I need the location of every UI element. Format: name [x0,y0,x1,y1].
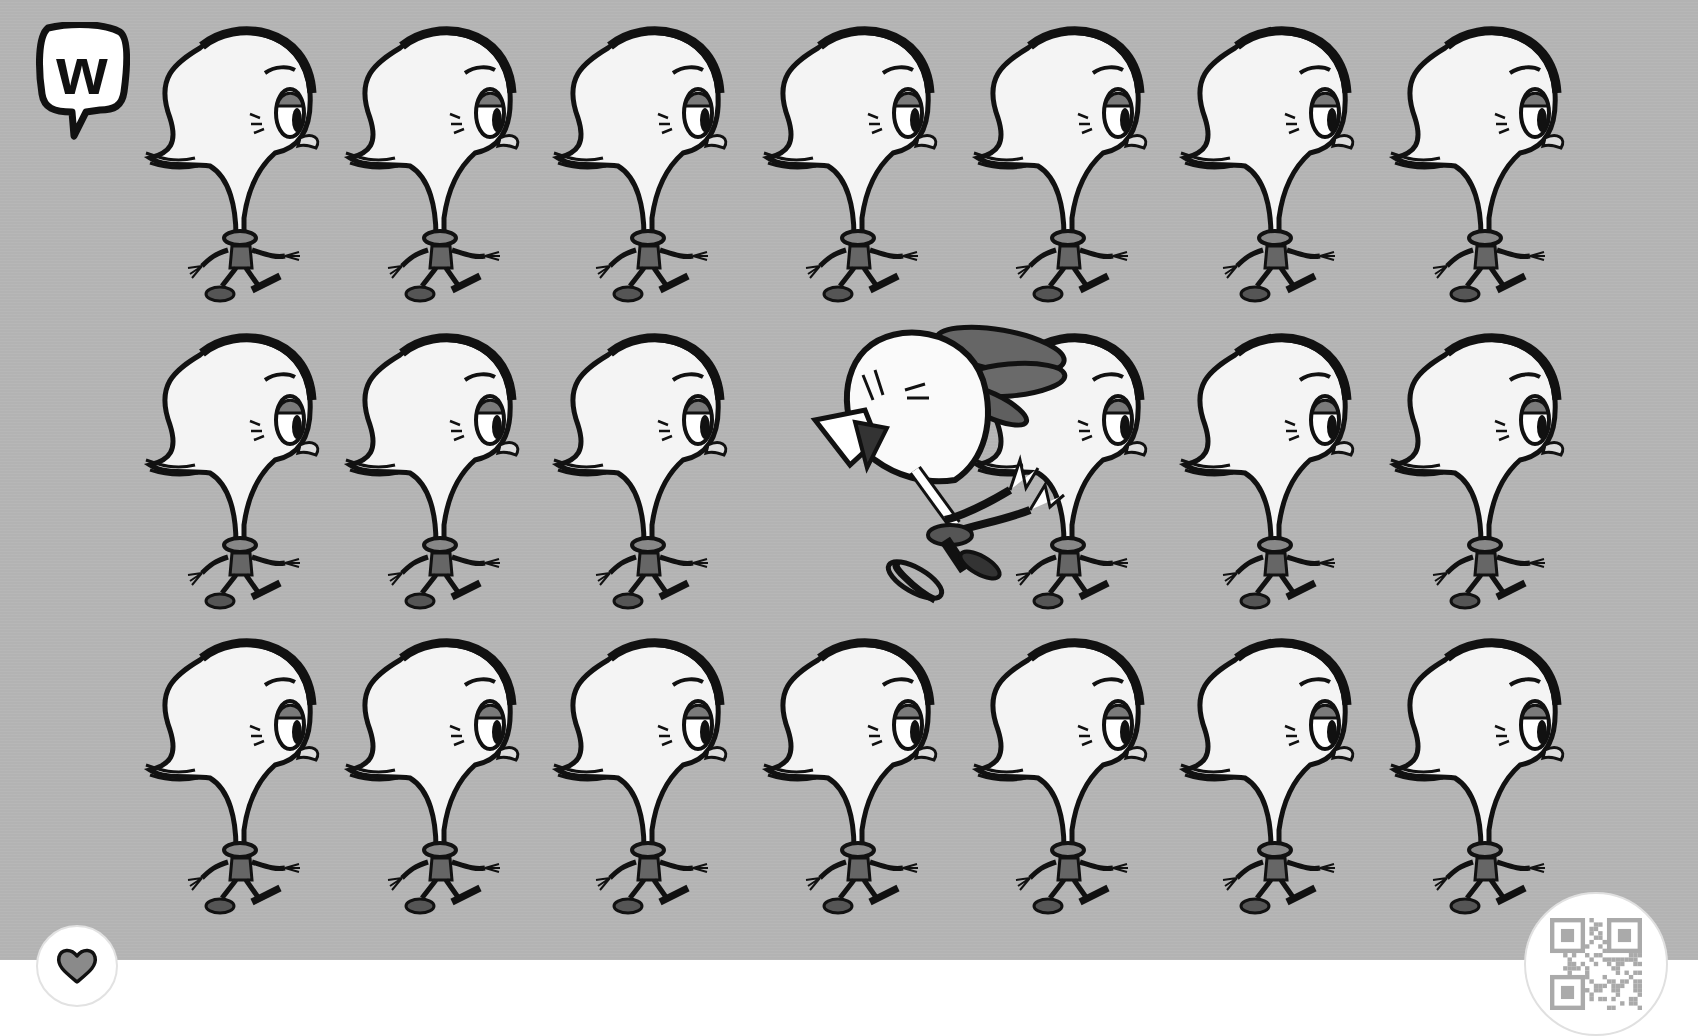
logo-icon: w [34,22,130,140]
heart-icon [55,946,99,986]
qr-code-icon [1550,918,1642,1010]
walking-bird[interactable] [140,325,320,610]
walking-bird[interactable] [548,630,728,915]
walking-bird[interactable] [340,630,520,915]
walking-bird[interactable] [548,325,728,610]
odd-one-out-chick[interactable] [795,310,1075,610]
walking-bird[interactable] [340,18,520,303]
walking-bird[interactable] [1385,325,1565,610]
walking-bird[interactable] [758,18,938,303]
walking-bird[interactable] [1385,630,1565,915]
logo-letter: w [55,34,108,108]
walking-bird[interactable] [1175,18,1355,303]
walking-bird[interactable] [140,630,320,915]
walking-bird[interactable] [1175,325,1355,610]
walking-bird[interactable] [140,18,320,303]
walking-bird[interactable] [1175,630,1355,915]
walking-bird[interactable] [968,18,1148,303]
walking-bird[interactable] [340,325,520,610]
walking-bird[interactable] [1385,18,1565,303]
walking-bird[interactable] [968,630,1148,915]
scene-title: Find the odd one out [0,0,1,1]
illustration-canvas: Find the odd one out w [0,0,1698,960]
qr-code-badge: QR code [1524,892,1668,1036]
walking-bird[interactable] [758,630,938,915]
like-button[interactable]: Like [36,925,118,1007]
walking-bird[interactable] [548,18,728,303]
